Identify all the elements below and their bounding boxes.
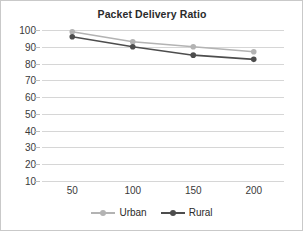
y-tick-label: 30 — [6, 142, 36, 153]
chart-legend: UrbanRural — [0, 207, 304, 218]
legend-label: Rural — [189, 207, 213, 218]
x-tick-label: 50 — [49, 185, 95, 196]
legend-marker-icon — [170, 210, 176, 216]
data-point — [190, 52, 196, 58]
y-tick-mark — [34, 30, 40, 31]
y-tick-label: 60 — [6, 92, 36, 103]
y-axis-spine — [41, 29, 42, 182]
y-tick-label: 100 — [6, 25, 36, 36]
chart-title: Packet Delivery Ratio — [0, 8, 304, 20]
y-tick-mark — [34, 97, 40, 98]
data-point — [251, 49, 257, 55]
data-point — [190, 44, 196, 50]
data-point — [69, 34, 75, 40]
legend-item-urban[interactable]: Urban — [91, 207, 146, 218]
y-tick-label: 90 — [6, 41, 36, 52]
data-point — [130, 44, 136, 50]
y-tick-label: 20 — [6, 159, 36, 170]
series-rural — [69, 34, 256, 62]
data-point — [251, 57, 257, 63]
legend-swatch-icon — [161, 208, 185, 218]
y-tick-label: 80 — [6, 58, 36, 69]
y-tick-label: 50 — [6, 108, 36, 119]
y-tick-mark — [34, 131, 40, 132]
plot-area — [42, 30, 284, 181]
data-point — [69, 29, 75, 35]
y-tick-mark — [34, 181, 40, 182]
y-tick-label: 40 — [6, 125, 36, 136]
x-tick-label: 150 — [170, 185, 216, 196]
y-tick-mark — [34, 80, 40, 81]
x-tick-label: 100 — [110, 185, 156, 196]
y-tick-label: 70 — [6, 75, 36, 86]
gridline — [42, 181, 284, 182]
y-tick-mark — [34, 147, 40, 148]
y-tick-label: 10 — [6, 176, 36, 187]
legend-label: Urban — [119, 207, 146, 218]
series-line — [72, 37, 254, 60]
y-tick-mark — [34, 114, 40, 115]
chart-container: Packet Delivery Ratio 100908070605040302… — [0, 0, 304, 232]
legend-marker-icon — [100, 210, 106, 216]
y-tick-mark — [34, 64, 40, 65]
x-tick-label: 200 — [231, 185, 277, 196]
data-point — [130, 39, 136, 45]
legend-item-rural[interactable]: Rural — [161, 207, 213, 218]
series-layer — [42, 30, 284, 181]
y-tick-mark — [34, 47, 40, 48]
legend-swatch-icon — [91, 208, 115, 218]
y-tick-mark — [34, 164, 40, 165]
